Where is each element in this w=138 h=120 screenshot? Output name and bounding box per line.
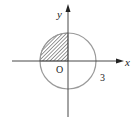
y-axis-arrow-icon: [66, 4, 71, 12]
coordinate-diagram: x y O 3: [0, 0, 138, 120]
y-axis-label: y: [56, 8, 62, 20]
x-axis-label: x: [124, 56, 130, 68]
radius-label: 3: [100, 72, 105, 83]
origin-label: O: [56, 64, 63, 75]
x-axis-arrow-icon: [116, 59, 124, 64]
